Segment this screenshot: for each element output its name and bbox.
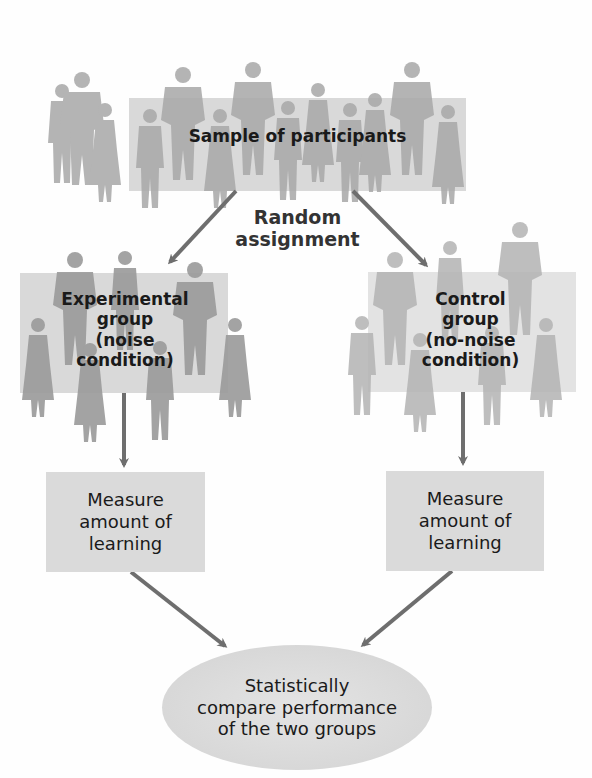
sample-label-text: Sample of participants [189,126,407,146]
measure-right-line-3: learning [419,532,512,554]
control-line-3: (no-noise [398,330,543,350]
experimental-line-2: group [40,309,210,329]
sample-label: Sample of participants [129,126,466,146]
statistical-comparison-ellipse: Statistically compare performance of the… [162,645,432,770]
arrow-left-to-compare [131,572,225,646]
arrow-right-to-compare [363,571,452,645]
experimental-group-label: Experimental group (noise condition) [40,289,210,371]
control-line-4: condition) [398,350,543,370]
measure-learning-experimental: Measure amount of learning [46,472,205,572]
measure-learning-control: Measure amount of learning [386,471,544,571]
control-group-label: Control group (no-noise condition) [398,289,543,371]
compare-line-1: Statistically [197,675,397,697]
control-line-2: group [398,309,543,329]
random-assignment-line1: Random [220,207,375,229]
compare-line-2: compare performance [197,697,397,719]
experimental-line-1: Experimental [40,289,210,309]
measure-left-line-3: learning [79,533,172,555]
random-assignment-label: Random assignment [220,207,375,251]
measure-left-line-2: amount of [79,511,172,533]
compare-line-3: of the two groups [197,718,397,740]
control-line-1: Control [398,289,543,309]
measure-left-line-1: Measure [79,489,172,511]
experimental-line-4: condition) [40,350,210,370]
measure-right-line-2: amount of [419,510,512,532]
measure-right-line-1: Measure [419,488,512,510]
random-assignment-line2: assignment [220,229,375,251]
experimental-line-3: (noise [40,330,210,350]
